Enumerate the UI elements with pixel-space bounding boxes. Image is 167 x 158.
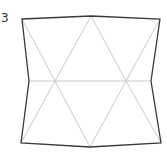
fold-line: [90, 81, 126, 147]
fold-line: [55, 81, 90, 147]
fold-line: [91, 16, 126, 81]
fold-line: [21, 81, 55, 143]
folded-hexagon-diagram: [0, 0, 167, 158]
fold-line: [55, 16, 91, 81]
outline-shape: [21, 16, 161, 147]
inner-fold-lines: [21, 16, 161, 147]
fold-line: [22, 19, 55, 81]
